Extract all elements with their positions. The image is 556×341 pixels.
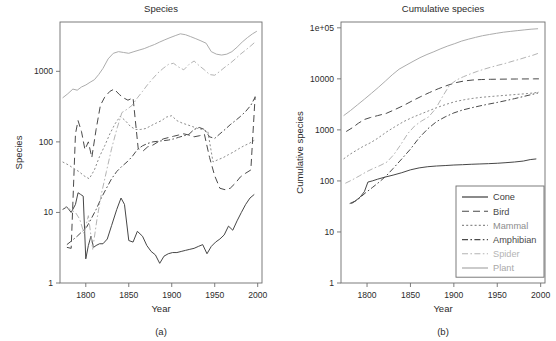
series-line-b-mammal — [344, 92, 539, 159]
y-tick-label-a-1: 10 — [43, 207, 53, 217]
series-line-b-plant — [344, 29, 538, 116]
x-tick-label-b-4: 2000 — [531, 290, 550, 300]
y-tick-label-b-3: 1000 — [315, 125, 334, 135]
y-axis-label-a: Species — [13, 135, 24, 169]
x-tick-label-a-0: 1800 — [76, 290, 95, 300]
x-tick-label-b-0: 1800 — [357, 290, 376, 300]
y-tick-label-a-0: 1 — [48, 278, 53, 288]
y-tick-label-b-4: 10000 — [310, 74, 334, 84]
x-axis-label-a: Year — [151, 303, 170, 314]
panel-caption-a: (a) — [155, 326, 167, 337]
panel-b: Cumulative species1101001000100001e+0518… — [294, 3, 550, 337]
y-tick-label-b-0: 1 — [329, 278, 334, 288]
x-tick-label-a-2: 1900 — [162, 290, 181, 300]
x-tick-label-a-1: 1850 — [119, 290, 138, 300]
legend-label-amphibian: Amphibian — [493, 235, 536, 245]
panel-b-title: Cumulative species — [402, 3, 485, 14]
y-tick-label-a-2: 100 — [39, 137, 54, 147]
legend-label-mammal: Mammal — [493, 221, 528, 231]
y-tick-label-b-1: 10 — [324, 227, 334, 237]
legend-label-bird: Bird — [493, 207, 509, 217]
y-tick-label-a-3: 1000 — [34, 66, 53, 76]
legend-label-spider: Spider — [493, 249, 520, 259]
y-tick-label-b-2: 100 — [320, 176, 335, 186]
panel-a-title: Species — [144, 3, 178, 14]
panel-a: Species110100100018001850190019502000Yea… — [13, 3, 267, 337]
x-tick-label-b-2: 1900 — [444, 290, 463, 300]
x-tick-label-b-3: 1950 — [488, 290, 507, 300]
legend: ConeBirdMammalAmphibianSpiderPlant — [456, 186, 544, 277]
legend-label-cone: Cone — [493, 192, 515, 202]
x-tick-label-b-1: 1850 — [401, 290, 420, 300]
figure-svg: Species110100100018001850190019502000Yea… — [0, 0, 556, 341]
legend-label-plant: Plant — [493, 263, 514, 273]
y-axis-label-b: Cumulative species — [294, 111, 305, 194]
x-tick-label-a-3: 1950 — [205, 290, 224, 300]
figure-container: Species110100100018001850190019502000Yea… — [0, 0, 556, 341]
y-tick-label-b-5: 1e+05 — [310, 23, 334, 33]
series-line-a-mammal — [63, 116, 255, 179]
series-line-b-bird — [346, 79, 539, 132]
series-line-a-amphibian — [67, 97, 255, 244]
panel-caption-b: (b) — [437, 326, 449, 337]
x-tick-label-a-4: 2000 — [248, 290, 267, 300]
x-axis-label-b: Year — [433, 303, 452, 314]
series-line-a-cone — [63, 193, 255, 264]
